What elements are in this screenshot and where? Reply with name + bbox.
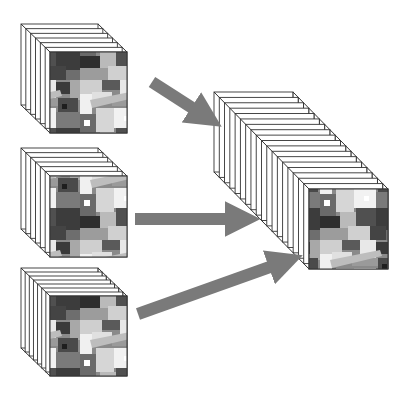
arrow-top-icon <box>152 82 204 115</box>
input-cube-1 <box>21 24 127 133</box>
image-face <box>50 296 127 376</box>
input-cube-3 <box>21 268 127 376</box>
image-face <box>50 176 127 257</box>
image-face <box>50 52 127 133</box>
input-cube-2 <box>21 148 127 257</box>
arrow-bottom-icon <box>138 262 282 314</box>
fusion-diagram <box>0 0 408 398</box>
image-face <box>309 189 388 269</box>
fused-output-cube <box>214 92 388 269</box>
cubes-layer <box>21 24 388 376</box>
